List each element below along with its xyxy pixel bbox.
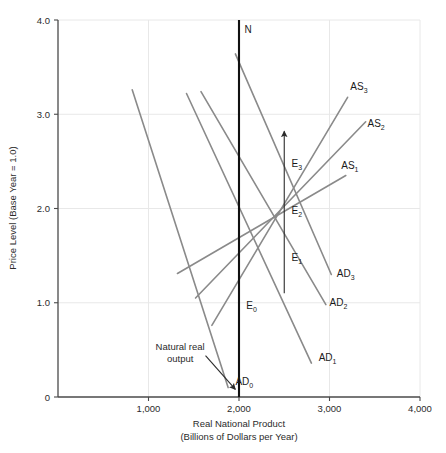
natural-real-output-annotation-line1: Natural real: [156, 341, 205, 352]
curve-label-as2: AS2: [368, 118, 385, 131]
aggregate-supply-demand-chart: 01.02.03.04.0 1,0002,0003,0004,000 N E0E…: [0, 0, 446, 453]
curve-label-ad2: AD2: [330, 297, 348, 310]
curve-lines: [132, 54, 365, 388]
y-tick-label: 1.0: [37, 297, 50, 308]
y-axis-title: Price Level (Base Year = 1.0): [7, 146, 18, 269]
x-tick-label: 4,000: [408, 403, 432, 414]
natural-real-output-annotation-line2: output: [167, 353, 194, 364]
x-tick-label: 1,000: [137, 403, 161, 414]
x-tick-label: 3,000: [318, 403, 342, 414]
curve-label-ad1: AD1: [319, 352, 337, 365]
curve-label-as3: AS3: [350, 81, 367, 94]
curve-labels: AD0AD1AD2AD3AS1AS2AS3: [235, 81, 384, 389]
x-axis-tick-labels: 1,0002,0003,0004,000: [137, 403, 432, 414]
curve-as3: [212, 97, 348, 325]
y-tick-label: 2.0: [37, 203, 50, 214]
curve-as1: [177, 176, 345, 274]
curve-ad1: [187, 94, 312, 364]
x-axis-title: Real National Product: [193, 418, 286, 429]
y-tick-label: 0: [45, 392, 50, 403]
x-tick-label: 2,000: [227, 403, 251, 414]
x-axis-subtitle: (Billions of Dollars per Year): [180, 431, 297, 442]
y-axis-tick-labels: 01.02.03.04.0: [37, 15, 50, 403]
curve-label-ad3: AD3: [337, 268, 355, 281]
axes: [54, 20, 420, 401]
equilibrium-points: E0E1E2E3: [246, 158, 302, 313]
equilibrium-label-e1: E1: [291, 252, 302, 265]
equilibrium-label-e2: E2: [291, 205, 302, 218]
y-tick-label: 4.0: [37, 15, 50, 26]
equilibrium-label-e3: E3: [291, 158, 302, 171]
chart-figure: 01.02.03.04.0 1,0002,0003,0004,000 N E0E…: [0, 0, 446, 453]
natural-real-output-pointer: [206, 356, 236, 390]
natural-output-line-label: N: [244, 24, 251, 35]
y-tick-label: 3.0: [37, 109, 50, 120]
curve-label-as1: AS1: [341, 160, 358, 173]
arrows: [206, 131, 285, 389]
annotations: Natural realoutput: [156, 341, 205, 364]
